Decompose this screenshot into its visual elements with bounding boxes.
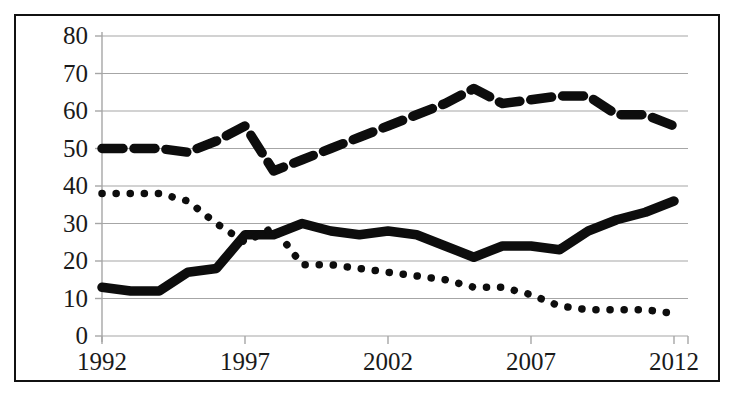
series-dotted — [102, 194, 674, 314]
x-axis-tick-label: 1992 — [57, 349, 147, 374]
chart-frame: 0102030405060708019921997200220072012 — [14, 14, 720, 382]
y-axis-tick-label: 10 — [32, 286, 88, 311]
y-axis-tick-label: 50 — [32, 136, 88, 161]
x-axis-tick-label: 2002 — [343, 349, 433, 374]
y-axis-tick-label: 80 — [32, 23, 88, 48]
y-axis-tick-label: 0 — [32, 323, 88, 348]
y-axis-tick-label: 70 — [32, 61, 88, 86]
x-axis-tick-label: 1997 — [200, 349, 290, 374]
x-axis-tick-label: 2012 — [629, 349, 719, 374]
x-axis-tick-label: 2007 — [486, 349, 576, 374]
y-axis-tick-label: 60 — [32, 98, 88, 123]
y-axis-tick-label: 40 — [32, 173, 88, 198]
y-axis-tick-label: 30 — [32, 211, 88, 236]
chart-plot-area — [16, 16, 718, 380]
series-solid — [102, 201, 674, 291]
series-dashed — [102, 89, 674, 172]
y-axis-tick-label: 20 — [32, 248, 88, 273]
